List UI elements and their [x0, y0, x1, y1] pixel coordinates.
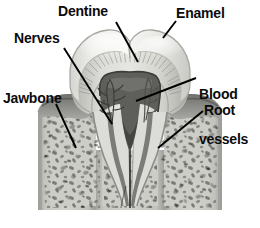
label-root: Root	[204, 103, 235, 118]
label-blood-vessels-line2: vessels	[199, 132, 248, 147]
label-blood-vessels-line1: Blood	[199, 87, 248, 102]
tooth-diagram-figure: Dentine Enamel Nerves Blood vessels Jawb…	[0, 0, 260, 228]
label-jawbone: Jawbone	[3, 91, 62, 106]
label-nerves: Nerves	[14, 31, 60, 46]
label-dentine: Dentine	[58, 4, 108, 19]
label-enamel: Enamel	[176, 6, 225, 21]
